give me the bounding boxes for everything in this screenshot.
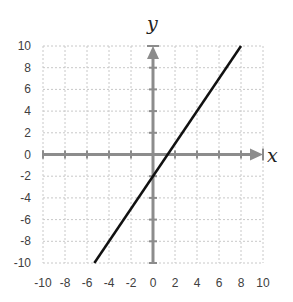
y-tick-label: -6 xyxy=(20,213,31,227)
x-tick-label: 8 xyxy=(238,276,245,290)
y-axis-arrow-icon xyxy=(147,46,159,59)
x-tick-label: 6 xyxy=(216,276,223,290)
y-axis-title: y xyxy=(146,12,158,34)
chart: -10-8-6-4-20246810 -10-8-6-4-20246810 x … xyxy=(0,0,293,302)
y-tick-label: 6 xyxy=(24,82,31,96)
x-tick-label: -6 xyxy=(82,276,93,290)
axes xyxy=(43,46,263,263)
x-tick-label: -10 xyxy=(34,276,52,290)
x-tick-label: -2 xyxy=(126,276,137,290)
x-axis-title: x xyxy=(267,144,278,166)
x-tick-label: 2 xyxy=(172,276,179,290)
x-tick-label: 4 xyxy=(194,276,201,290)
y-tick-label: -8 xyxy=(20,234,31,248)
x-tick-label: 0 xyxy=(150,276,157,290)
x-tick-label: -4 xyxy=(104,276,115,290)
x-tick-labels: -10-8-6-4-20246810 xyxy=(34,276,270,290)
x-tick-label: -8 xyxy=(60,276,71,290)
y-tick-label: -4 xyxy=(20,191,31,205)
y-tick-label: -2 xyxy=(20,169,31,183)
y-tick-label: 0 xyxy=(24,148,31,162)
y-tick-labels: -10-8-6-4-20246810 xyxy=(14,39,32,270)
y-tick-label: 4 xyxy=(24,104,31,118)
y-tick-label: 8 xyxy=(24,61,31,75)
y-tick-label: -10 xyxy=(14,256,32,270)
y-tick-label: 2 xyxy=(24,126,31,140)
y-tick-label: 10 xyxy=(18,39,32,53)
x-tick-label: 10 xyxy=(256,276,270,290)
x-axis-arrow-icon xyxy=(250,149,263,161)
